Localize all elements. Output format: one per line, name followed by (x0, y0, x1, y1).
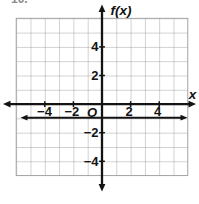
y-tick-label-neg4: −4 (84, 154, 100, 169)
x-tick-label-neg4: −4 (37, 104, 53, 119)
y-axis-bottom-arrow-icon (99, 184, 106, 192)
x-tick-label-2: 2 (126, 104, 133, 119)
x-axis-left-arrow-icon (3, 101, 11, 108)
x-axis-name: x (188, 87, 197, 102)
graph-canvas: 10. (0, 0, 199, 204)
x-tick-label-4: 4 (154, 104, 162, 119)
y-tick-label-neg2: −2 (84, 125, 99, 140)
coordinate-plane-figure: 10. (0, 0, 199, 204)
question-number: 10. (11, 0, 28, 6)
y-axis-name: f(x) (111, 3, 132, 18)
x-tick-label-neg2: −2 (64, 104, 79, 119)
y-tick-label-4: 4 (91, 39, 99, 54)
x-axis-right-arrow-icon (189, 101, 197, 108)
origin-label: O (87, 105, 97, 120)
y-tick-label-2: 2 (91, 68, 98, 83)
y-axis-top-arrow-icon (99, 5, 106, 13)
